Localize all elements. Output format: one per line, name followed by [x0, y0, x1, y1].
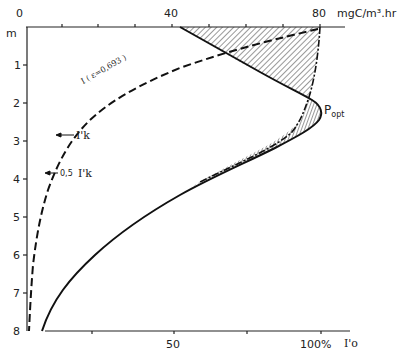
popt-sub: opt: [331, 110, 344, 119]
bottom-axis-unit: I'o: [344, 338, 358, 349]
label-popt: Popt: [324, 104, 344, 119]
production-depth-chart: [0, 0, 407, 356]
label-half-Ik-prefix: 0,5: [60, 170, 73, 178]
depth-tick-1: 1: [14, 60, 21, 71]
hatched-region-lower: [190, 97, 321, 188]
depth-axis: [23, 27, 27, 331]
top-tick-80: 80: [312, 8, 326, 19]
top-axis-unit: mgC/m³.hr: [337, 8, 396, 19]
top-axis: [26, 24, 345, 27]
depth-tick-8: 8: [13, 326, 20, 337]
top-tick-40: 40: [164, 8, 178, 19]
depth-tick-2: 2: [13, 98, 20, 109]
depth-tick-5: 5: [13, 212, 20, 223]
label-half-Ik: I'k: [78, 168, 92, 179]
bottom-axis: [45, 331, 350, 334]
bottom-tick-50: 50: [166, 339, 180, 350]
depth-tick-7: 7: [13, 288, 20, 299]
depth-tick-4: 4: [13, 174, 20, 185]
top-tick-0: 0: [16, 8, 23, 19]
label-Ik: I'k: [76, 130, 90, 141]
hatched-region-upper: [180, 27, 320, 97]
depth-tick-6: 6: [13, 250, 20, 261]
depth-tick-3: 3: [13, 136, 20, 147]
depth-unit: m: [6, 28, 17, 39]
bottom-tick-100: 100%: [300, 339, 331, 350]
